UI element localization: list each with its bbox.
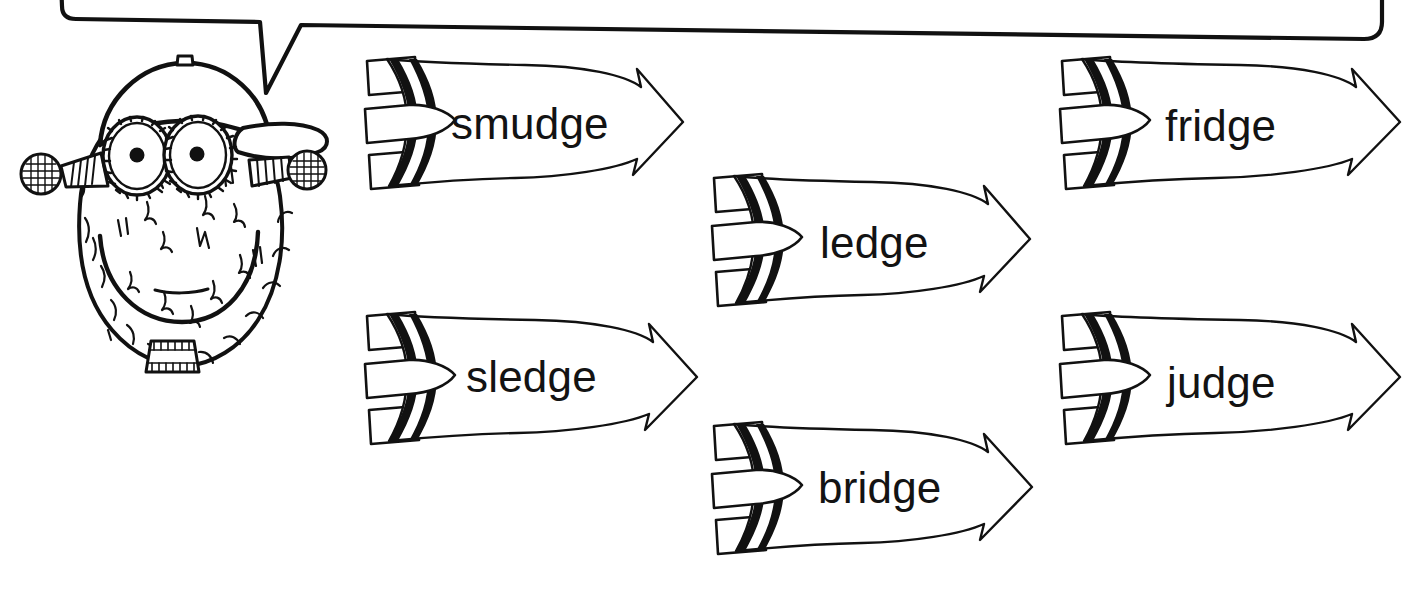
- worksheet-canvas: smudge ledge fridge: [0, 0, 1412, 589]
- arrow-layer-judge[interactable]: [0, 0, 1412, 589]
- arrow-label-judge: judge: [1167, 361, 1276, 405]
